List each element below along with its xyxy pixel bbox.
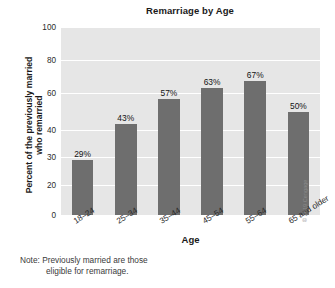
y-axis-tick-label: 80 <box>16 56 56 65</box>
y-axis-tick-label: 30 <box>16 153 56 162</box>
chart-figure: Remarriage by Age Percent of the previou… <box>0 0 335 288</box>
bar <box>158 99 180 215</box>
y-axis-tick-label: 100 <box>16 23 56 32</box>
bar-value-label: 50% <box>290 101 307 111</box>
y-axis-tick-label: 60 <box>16 89 56 98</box>
y-axis-tick-label: 20 <box>16 181 56 190</box>
footnote: Note: Previously married are those eligi… <box>20 255 250 277</box>
gridline <box>61 157 320 158</box>
chart-title: Remarriage by Age <box>60 5 320 16</box>
gridline <box>61 27 320 28</box>
bar-value-label: 43% <box>117 113 134 123</box>
copyright-credit: © 2019 Cengage <box>302 152 308 222</box>
gridline <box>61 185 320 186</box>
bar-value-label: 29% <box>74 149 91 159</box>
y-axis-tick-label: 40 <box>16 126 56 135</box>
footnote-line-2: eligible for remarriage. <box>20 266 250 277</box>
gridline <box>61 130 320 131</box>
plot-area <box>61 27 320 215</box>
bar <box>201 88 223 215</box>
x-axis-label: Age <box>61 234 320 245</box>
bar-value-label: 63% <box>204 77 221 87</box>
gridline <box>61 93 320 94</box>
bar-value-label: 67% <box>247 70 264 80</box>
bar <box>244 81 266 215</box>
footnote-line-1: Note: Previously married are those <box>20 255 148 265</box>
bar-value-label: 57% <box>161 88 178 98</box>
bar <box>115 124 137 215</box>
y-axis-tick-label: 0 <box>16 211 56 220</box>
gridline <box>61 60 320 61</box>
